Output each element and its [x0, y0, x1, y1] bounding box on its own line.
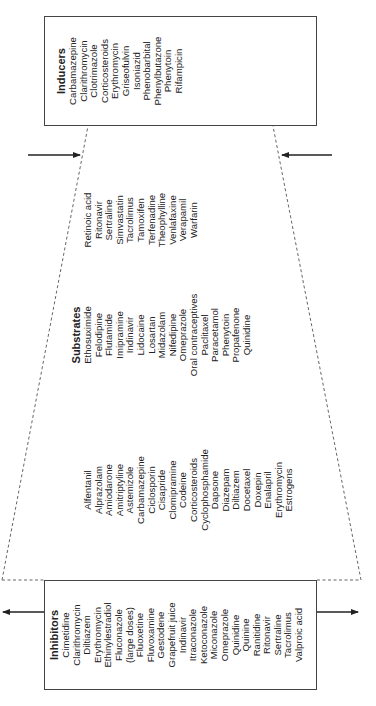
inhibitor-item: Valproic acid — [294, 602, 305, 667]
substrates-column-1: Alfentanil Alprazolam Amiodarone Amitrip… — [83, 449, 295, 531]
substrate-item: Carbamazepine — [136, 449, 147, 531]
substrates-column-3: Retinoic acid Ritonavir Sertraline Simva… — [83, 193, 200, 248]
inducer-item: Carbamazepine — [68, 37, 79, 106]
substrate-item: Quinidine — [242, 294, 253, 377]
substrate-item: Warfarin — [189, 193, 200, 248]
cyp3a4-interaction-diagram: Inhibitors Cimetidine Clarithromycin Dil… — [0, 0, 376, 706]
inducer-item: Griseofulvin — [121, 37, 132, 106]
substrate-item: Oral contraceptives — [189, 294, 200, 377]
substrate-item: Tamoxifen — [136, 193, 147, 248]
substrates-column-2: Substrates Ethosuximide Felodipine Fluta… — [70, 294, 253, 377]
inhibitors-list: Inhibitors Cimetidine Clarithromycin Dil… — [48, 602, 305, 667]
substrate-item: Estrogens — [284, 449, 295, 531]
substrate-item: Lidocaine — [136, 294, 147, 377]
inhibitor-item: Omeprazole — [220, 602, 231, 667]
substrate-item: Retinoic acid — [83, 193, 94, 248]
inhibitor-item: Grapefruit juice — [167, 602, 178, 667]
inducer-item: Rifampicin — [174, 37, 185, 106]
inhibitor-item: Fluconazole — [114, 602, 125, 667]
substrate-item: Corticosteroids — [189, 449, 200, 531]
inhibitor-item: Cimetidine — [61, 602, 72, 667]
substrate-item: Docetaxel — [242, 449, 253, 531]
substrate-item: Ethosuximide — [83, 294, 94, 377]
substrate-item: Alfentanil — [83, 449, 94, 531]
inducers-list: Inducers Carbamazepine Clarithromycin Cl… — [55, 37, 185, 106]
